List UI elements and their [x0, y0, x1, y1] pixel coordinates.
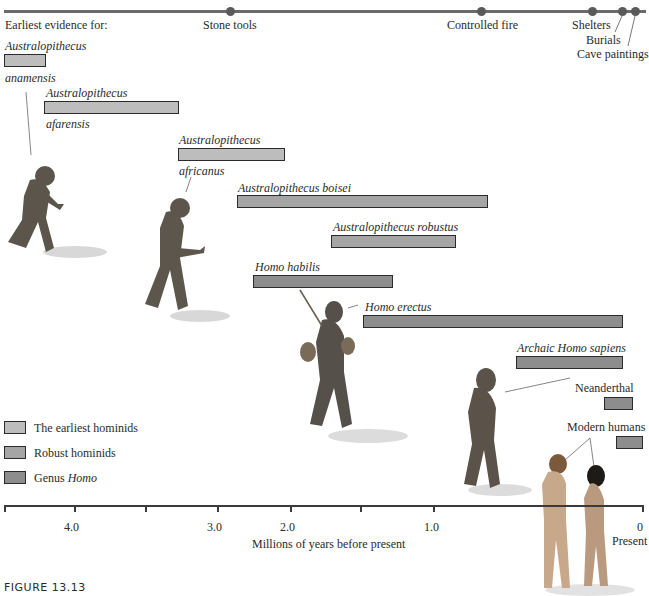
x-tick-1.5 — [360, 505, 362, 512]
legend-swatch-earliest — [4, 421, 26, 434]
x-tick-1.0 — [433, 505, 435, 512]
x-present-label: Present — [612, 535, 647, 547]
x-tick-label-1: 1.0 — [424, 521, 439, 533]
figure-africanus — [145, 198, 205, 310]
hominid-illustrations — [0, 80, 646, 596]
shadow-neanderthal — [468, 484, 532, 496]
shadow-erectus — [328, 429, 408, 443]
figure-erectus — [300, 290, 355, 428]
x-tick-4.0 — [74, 505, 76, 512]
legend-label-earliest: The earliest hominids — [34, 422, 138, 434]
x-tick-2.0 — [290, 505, 292, 512]
figure-neanderthal — [464, 368, 500, 488]
x-tick-label-3: 3.0 — [207, 521, 222, 533]
legend-label-robust: Robust hominids — [34, 447, 116, 459]
x-tick-label-0: 0 — [637, 521, 643, 533]
x-tick-label-2: 2.0 — [280, 521, 295, 533]
figure-modern-humans — [542, 454, 608, 588]
x-axis-line — [4, 505, 643, 507]
x-tick-4.5 — [4, 505, 6, 512]
x-tick-3.0 — [217, 505, 219, 512]
x-tick-3.5 — [145, 505, 147, 512]
x-tick-0 — [642, 505, 644, 512]
event-leader-lines — [0, 0, 646, 60]
shadow-africanus — [170, 310, 230, 322]
legend-swatch-homo — [4, 471, 26, 484]
x-axis-title: Millions of years before present — [252, 538, 405, 550]
figure-number: FIGURE 13.13 — [4, 581, 86, 594]
legend-label-homo: Genus Homo — [34, 472, 97, 484]
bar-a-anamensis — [4, 54, 46, 67]
species-label-anamensis-genus: Australopithecus — [5, 40, 86, 52]
x-tick-label-4: 4.0 — [64, 521, 79, 533]
figure-anamensis — [8, 166, 64, 252]
legend-swatch-robust — [4, 446, 26, 459]
